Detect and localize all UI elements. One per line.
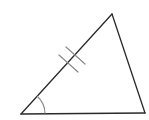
angle-arc — [37, 96, 45, 114]
side-left — [21, 14, 112, 114]
triangle-diagram — [0, 0, 149, 120]
side-right — [112, 14, 145, 113]
side-base — [21, 113, 145, 114]
